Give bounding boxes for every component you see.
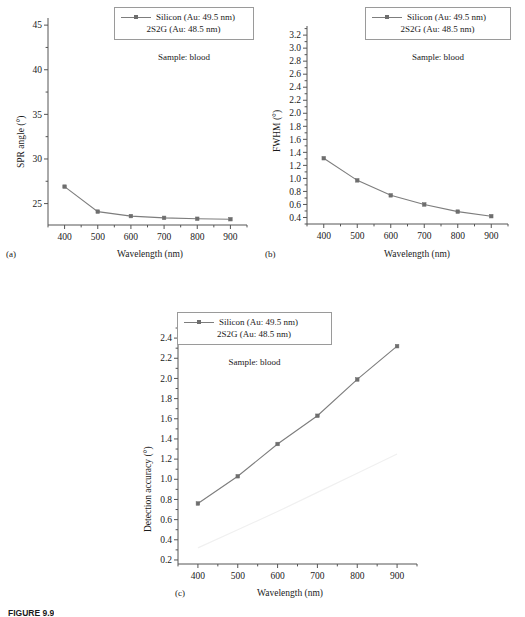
svg-text:800: 800 (350, 571, 365, 580)
svg-text:25: 25 (33, 199, 43, 209)
legend-key-silicon-icon (121, 13, 151, 22)
svg-text:0.8: 0.8 (289, 187, 301, 197)
legend-label-2s2g: 2S2G (Au: 48.5 nm) (401, 23, 475, 35)
panel-b-tag: (b) (265, 249, 276, 259)
svg-text:1.8: 1.8 (160, 394, 172, 404)
svg-text:900: 900 (484, 231, 499, 240)
panel-c-tag: (c) (175, 588, 185, 598)
svg-text:2.0: 2.0 (160, 374, 172, 384)
panel-a-ylabel: SPR angle (°) (16, 116, 26, 168)
panel-b-xlabel: Wavelength (nm) (322, 249, 512, 259)
legend-entry-2s2g: 2S2G (Au: 48.5 nm) (372, 23, 503, 35)
svg-text:2.4: 2.4 (160, 333, 172, 343)
svg-text:700: 700 (310, 571, 325, 580)
svg-text:0.4: 0.4 (160, 535, 172, 545)
svg-text:1.6: 1.6 (289, 135, 301, 145)
svg-text:3.2: 3.2 (289, 30, 301, 40)
svg-text:1.0: 1.0 (160, 474, 172, 484)
legend-entry-silicon: Silicon (Au: 49.5 nm) (121, 11, 246, 23)
legend-entry-2s2g: 2S2G (Au: 48.5 nm) (121, 23, 246, 35)
svg-text:400: 400 (191, 571, 206, 580)
svg-text:900: 900 (390, 571, 405, 580)
svg-text:0.6: 0.6 (160, 515, 172, 525)
svg-text:2.2: 2.2 (160, 353, 172, 363)
svg-text:2.0: 2.0 (289, 108, 301, 118)
svg-text:1.8: 1.8 (289, 122, 301, 132)
svg-text:1.4: 1.4 (160, 434, 172, 444)
legend-entry-2s2g: 2S2G (Au: 48.5 nm) (184, 328, 324, 340)
legend-label-silicon: Silicon (Au: 49.5 nm) (156, 11, 235, 23)
legend-label-silicon: Silicon (Au: 49.5 nm) (219, 316, 298, 328)
svg-text:2.2: 2.2 (289, 95, 301, 105)
svg-text:1.0: 1.0 (289, 174, 301, 184)
svg-text:1.6: 1.6 (160, 414, 172, 424)
panel-a-xlabel: Wavelength (nm) (55, 249, 245, 259)
svg-text:700: 700 (157, 232, 172, 240)
svg-text:600: 600 (384, 231, 399, 240)
svg-text:800: 800 (190, 232, 205, 240)
svg-text:700: 700 (417, 231, 432, 240)
svg-text:40: 40 (33, 65, 43, 75)
svg-text:1.2: 1.2 (289, 161, 301, 171)
panel-a: 2530354045400500600700800900 Silicon (Au… (0, 0, 262, 268)
svg-text:500: 500 (231, 571, 246, 580)
legend-label-2s2g: 2S2G (Au: 48.5 nm) (217, 328, 291, 340)
legend-key-silicon-icon (372, 13, 402, 22)
svg-text:2.8: 2.8 (289, 56, 301, 66)
svg-text:400: 400 (317, 231, 332, 240)
figure-caption: FIGURE 9.9 (8, 608, 54, 617)
svg-text:35: 35 (33, 110, 43, 120)
legend-key-silicon-icon (184, 318, 214, 327)
legend-entry-silicon: Silicon (Au: 49.5 nm) (372, 11, 503, 23)
legend-label-2s2g: 2S2G (Au: 48.5 nm) (147, 23, 221, 35)
panel-b: 0.40.60.81.01.21.41.61.82.02.22.42.62.83… (262, 0, 525, 268)
panel-b-legend: Silicon (Au: 49.5 nm) 2S2G (Au: 48.5 nm) (365, 7, 511, 40)
panel-a-legend: Silicon (Au: 49.5 nm) 2S2G (Au: 48.5 nm) (114, 7, 254, 40)
svg-text:2.4: 2.4 (289, 82, 301, 92)
svg-text:500: 500 (91, 232, 106, 240)
panel-a-tag: (a) (6, 249, 16, 259)
panel-c-legend: Silicon (Au: 49.5 nm) 2S2G (Au: 48.5 nm) (177, 312, 332, 345)
panel-a-sample-note: Sample: blood (114, 52, 254, 62)
legend-entry-silicon: Silicon (Au: 49.5 nm) (184, 316, 324, 328)
svg-text:1.2: 1.2 (160, 454, 172, 464)
svg-text:30: 30 (33, 154, 43, 164)
panel-b-ylabel: FWHM (°) (272, 110, 282, 152)
svg-text:2.6: 2.6 (289, 69, 301, 79)
svg-text:600: 600 (124, 232, 139, 240)
svg-text:500: 500 (350, 231, 365, 240)
svg-text:400: 400 (57, 232, 72, 240)
panel-c-sample-note: Sample: blood (177, 357, 332, 367)
panel-b-sample-note: Sample: blood (365, 52, 511, 62)
svg-text:0.4: 0.4 (289, 213, 301, 223)
svg-text:1.4: 1.4 (289, 148, 301, 158)
legend-label-silicon: Silicon (Au: 49.5 nm) (407, 11, 486, 23)
svg-text:45: 45 (33, 20, 43, 30)
svg-text:800: 800 (451, 231, 466, 240)
panel-c: 0.20.40.60.81.01.21.41.61.82.02.22.44005… (130, 300, 430, 600)
panel-c-ylabel: Detection accuracy (°) (143, 446, 153, 532)
svg-text:0.6: 0.6 (289, 200, 301, 210)
svg-text:900: 900 (223, 232, 238, 240)
svg-text:600: 600 (270, 571, 285, 580)
panel-c-xlabel: Wavelength (nm) (190, 588, 390, 598)
svg-text:0.2: 0.2 (160, 555, 172, 565)
svg-text:3.0: 3.0 (289, 43, 301, 53)
svg-text:0.8: 0.8 (160, 495, 172, 505)
